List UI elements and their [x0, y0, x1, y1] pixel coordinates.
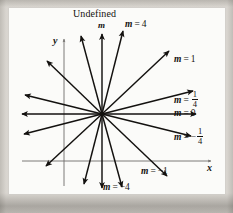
fraction-numerator-neg: 1 [197, 127, 203, 136]
label-m0-eq: = [183, 108, 188, 118]
ray-mn4-left [81, 36, 102, 114]
ray-mnq-left [25, 95, 102, 114]
fraction-neg-one-quarter: 14 [197, 127, 203, 145]
ray-group [22, 31, 196, 188]
label-mn4-value: −4 [120, 182, 130, 192]
label-m4-eq: = [134, 19, 139, 29]
label-undefined: Undefined [73, 9, 116, 19]
label-m-equals-4: m=4 [125, 20, 147, 30]
label-m4-variable: m [125, 19, 132, 29]
label-mn1-value: −1 [158, 166, 168, 176]
label-mnq-variable: m [174, 132, 181, 142]
label-mnq-sign: − [191, 132, 196, 142]
fraction-denominator-neg: 4 [197, 136, 203, 146]
label-m1-value: 1 [191, 54, 196, 64]
label-mn1-variable: m [141, 166, 148, 176]
ray-mn1-left [47, 61, 102, 114]
y-axis-label: y [53, 36, 57, 46]
label-mq-eq: = [183, 95, 188, 105]
ray-mn4-right [102, 114, 122, 187]
label-m-equals-one-quarter: m=14 [174, 90, 198, 108]
label-mn1-eq: = [150, 166, 155, 176]
label-m-equals-neg-one-quarter: m=−14 [174, 127, 203, 145]
label-m1-eq: = [183, 54, 188, 64]
label-mq-variable: m [174, 95, 181, 105]
label-m-equals-1: m=1 [174, 55, 196, 65]
label-m-equals-neg-1: m=−1 [141, 167, 168, 177]
fraction-one-quarter: 14 [192, 90, 198, 108]
label-m0-value: 0 [191, 108, 196, 118]
fraction-denominator: 4 [192, 99, 198, 109]
fraction-numerator: 1 [192, 90, 198, 99]
label-m-equals-neg-4: m=−4 [103, 183, 130, 193]
label-mn4-variable: m [103, 182, 110, 192]
ray-m4-down [84, 114, 102, 184]
label-m-undefined: m [98, 21, 105, 30]
x-axis-label: x [207, 163, 212, 173]
ray-m1-up [102, 51, 169, 114]
figure-root: Undefined m m=4 m=1 m=14 m=0 m=−14 m=−1 … [0, 0, 233, 213]
label-m4-value: 4 [142, 19, 147, 29]
label-mn4-eq: = [112, 182, 117, 192]
label-m-equals-0: m=0 [174, 109, 196, 119]
ray-m4-up [102, 31, 123, 114]
label-mnq-eq: = [183, 132, 188, 142]
label-m0-variable: m [174, 108, 181, 118]
label-m1-variable: m [174, 54, 181, 64]
